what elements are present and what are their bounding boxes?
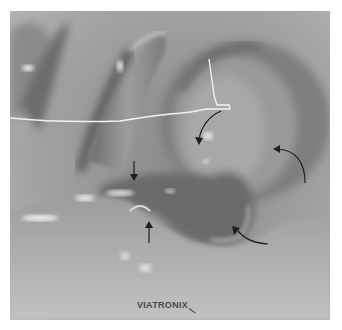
colon-rendering xyxy=(10,11,330,320)
viatronix-watermark: VIATRONIX xyxy=(137,300,207,314)
endoscopy-image xyxy=(10,11,330,320)
